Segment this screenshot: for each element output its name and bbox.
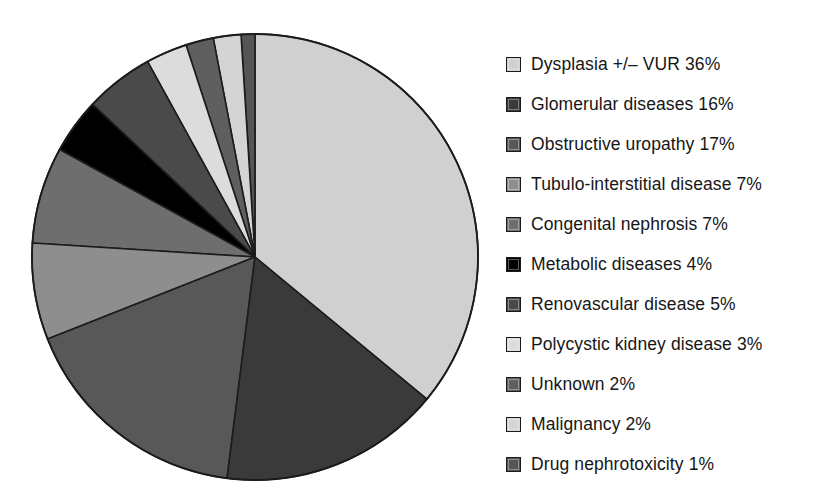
legend-swatch-icon [506, 297, 521, 312]
legend-item-malignancy[interactable]: Malignancy 2% [506, 404, 821, 444]
legend-item-label: Malignancy 2% [531, 414, 651, 434]
pie-chart-figure: Dysplasia +/– VUR 36% Glomerular disease… [0, 0, 827, 497]
pie-slices-group [32, 34, 478, 480]
legend-item-label: Drug nephrotoxicity 1% [531, 454, 714, 474]
legend-item-polycystic-kidney-disease[interactable]: Polycystic kidney disease 3% [506, 324, 821, 364]
legend-swatch-icon [506, 97, 521, 112]
legend-swatch-icon [506, 377, 521, 392]
legend-swatch-icon [506, 417, 521, 432]
legend-item-label: Congenital nephrosis 7% [531, 214, 728, 234]
legend-item-label: Obstructive uropathy 17% [531, 134, 735, 154]
legend-item-label: Renovascular disease 5% [531, 294, 736, 314]
legend-item-label: Metabolic diseases 4% [531, 254, 712, 274]
legend-item-label: Dysplasia +/– VUR 36% [531, 54, 720, 74]
legend-swatch-icon [506, 457, 521, 472]
legend-item-label: Unknown 2% [531, 374, 635, 394]
legend-item-glomerular-diseases[interactable]: Glomerular diseases 16% [506, 84, 821, 124]
legend-swatch-icon [506, 137, 521, 152]
legend-item-drug-nephrotoxicity[interactable]: Drug nephrotoxicity 1% [506, 444, 821, 484]
legend-item-renovascular-disease[interactable]: Renovascular disease 5% [506, 284, 821, 324]
legend-swatch-icon [506, 337, 521, 352]
legend-item-tubulo-interstitial-disease[interactable]: Tubulo-interstitial disease 7% [506, 164, 821, 204]
legend-swatch-icon [506, 217, 521, 232]
legend-swatch-icon [506, 257, 521, 272]
legend-item-label: Tubulo-interstitial disease 7% [531, 174, 762, 194]
legend-item-obstructive-uropathy[interactable]: Obstructive uropathy 17% [506, 124, 821, 164]
legend-item-dysplasia-vur[interactable]: Dysplasia +/– VUR 36% [506, 44, 821, 84]
chart-legend: Dysplasia +/– VUR 36% Glomerular disease… [506, 44, 821, 484]
legend-item-label: Glomerular diseases 16% [531, 94, 734, 114]
legend-item-metabolic-diseases[interactable]: Metabolic diseases 4% [506, 244, 821, 284]
legend-swatch-icon [506, 177, 521, 192]
pie-chart-plot-area [30, 23, 482, 493]
legend-item-congenital-nephrosis[interactable]: Congenital nephrosis 7% [506, 204, 821, 244]
legend-item-unknown[interactable]: Unknown 2% [506, 364, 821, 404]
pie-chart-svg [30, 23, 482, 493]
legend-swatch-icon [506, 57, 521, 72]
legend-item-label: Polycystic kidney disease 3% [531, 334, 762, 354]
